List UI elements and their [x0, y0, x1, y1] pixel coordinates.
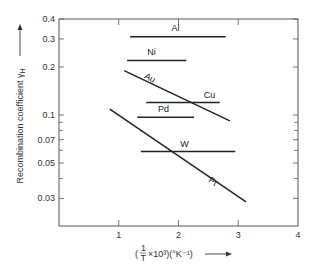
series-label: Al — [172, 23, 180, 33]
x-label-frac-num: 1 — [141, 243, 146, 253]
x-label-frac-den: T — [141, 253, 147, 263]
x-axis-ticks: 1234 — [116, 19, 300, 240]
x-label-rest: ×10³)(°K⁻¹) — [148, 249, 193, 259]
data-series: AlNiAuCuPdWPt — [110, 23, 246, 202]
series-ni: Ni — [127, 47, 186, 60]
series-w: W — [141, 139, 235, 152]
x-axis-label: ( 1 T ×10³)(°K⁻¹) — [135, 243, 232, 263]
x-axis-arrow-icon — [205, 252, 232, 257]
series-label: W — [180, 139, 189, 149]
y-tick-label: 0.4 — [42, 14, 55, 24]
y-tick-label: 0.07 — [37, 135, 55, 145]
y-tick-label: 0.3 — [42, 34, 55, 44]
series-label: Pd — [158, 104, 169, 114]
y-tick-label: 0.2 — [42, 62, 55, 72]
x-label-open-paren: ( — [135, 249, 138, 259]
series-label: Au — [143, 71, 157, 85]
series-label: Cu — [204, 90, 216, 100]
y-axis-label-text: Recombination coefficient γ — [15, 73, 25, 183]
x-tick-label: 2 — [176, 230, 181, 240]
x-tick-label: 3 — [236, 230, 241, 240]
y-tick-label: 0.05 — [37, 158, 55, 168]
series-label: Ni — [147, 47, 156, 57]
y-axis-label-sub: H — [19, 69, 26, 74]
recombination-coefficient-chart: 0.40.30.20.10.070.050.03 1234 AlNiAuCuPd… — [0, 0, 317, 274]
series-cu: Cu — [146, 90, 219, 102]
y-axis-arrow-icon — [18, 24, 23, 56]
series-pt: Pt — [110, 109, 246, 202]
x-tick-label: 1 — [116, 230, 121, 240]
y-tick-label: 0.1 — [42, 110, 55, 120]
svg-text:Recombination coefficient γH: Recombination coefficient γH — [15, 69, 26, 184]
plot-frame — [59, 19, 298, 226]
series-al: Al — [130, 23, 226, 36]
series-pd: Pd — [137, 104, 194, 117]
y-tick-label: 0.03 — [37, 193, 55, 203]
y-axis-label: Recombination coefficient γH — [15, 24, 26, 183]
x-tick-label: 4 — [295, 230, 300, 240]
